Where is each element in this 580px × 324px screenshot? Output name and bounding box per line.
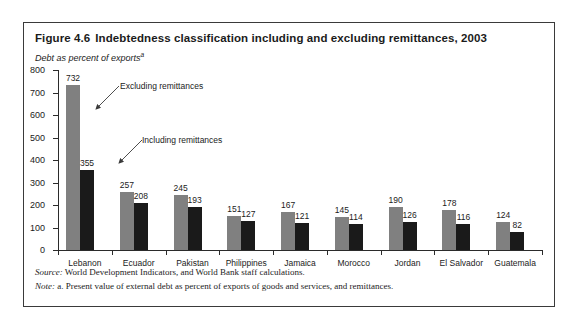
y-axis-tick-label: 100: [30, 223, 45, 233]
x-axis-tick: [327, 250, 328, 255]
x-axis-tick: [219, 250, 220, 255]
bar-including-remittances: [510, 232, 524, 250]
figure-footnotes: Source: World Development Indicators, an…: [35, 266, 540, 294]
footnote-source-text: World Development Indicators, and World …: [65, 267, 305, 277]
x-axis-tick: [434, 250, 435, 255]
y-axis-tick-label: 600: [30, 110, 45, 120]
bar-value-excluding: 178: [442, 198, 456, 208]
bar-value-including: 114: [349, 212, 363, 222]
bar-including-remittances: [241, 221, 255, 250]
x-axis-tick: [112, 250, 113, 255]
axis-subtitle-superscript: a: [141, 51, 145, 58]
bar-group: 12482: [488, 70, 542, 250]
bar-including-remittances: [134, 203, 148, 250]
figure-title-text: Indebtedness classification including an…: [95, 32, 487, 44]
x-axis-tick: [542, 250, 543, 255]
bar-group: 145114: [327, 70, 381, 250]
y-axis-tick-label: 300: [30, 178, 45, 188]
bar-excluding-remittances: [442, 210, 456, 250]
bar-excluding-remittances: [496, 222, 510, 250]
bar-group: 245193: [166, 70, 220, 250]
bar-including-remittances: [349, 224, 363, 250]
bar-group: 167121: [273, 70, 327, 250]
bar-including-remittances: [403, 222, 417, 250]
bar-excluding-remittances: [335, 217, 349, 250]
bar-group: 190126: [381, 70, 435, 250]
bar-value-including: 127: [241, 209, 255, 219]
bar-including-remittances: [188, 207, 202, 250]
bar-excluding-remittances: [389, 207, 403, 250]
footnote-source: Source: World Development Indicators, an…: [35, 266, 540, 280]
y-axis-tick-label: 200: [30, 200, 45, 210]
axis-subtitle: Debt as percent of exportsa: [35, 51, 144, 63]
bar-value-including: 126: [403, 210, 417, 220]
x-axis-tick: [381, 250, 382, 255]
footnote-note-label: Note:: [35, 281, 55, 291]
y-axis-tick-label: 0: [40, 245, 45, 255]
bar-group: 178116: [434, 70, 488, 250]
chart-plot-area: 0100200300400500600700800 73235525720824…: [58, 70, 542, 250]
y-axis-tick-label: 800: [30, 65, 45, 75]
x-axis-tick: [273, 250, 274, 255]
bar-value-including: 355: [80, 158, 94, 168]
bar-excluding-remittances: [120, 192, 134, 250]
bar-excluding-remittances: [174, 195, 188, 250]
bar-value-including: 116: [457, 212, 471, 222]
axis-subtitle-text: Debt as percent of exports: [35, 53, 141, 63]
figure-number: Figure 4.6: [35, 32, 90, 44]
bar-value-including: 82: [512, 220, 521, 230]
annotation-excluding-remittances: Excluding remittances: [120, 81, 203, 91]
bar-value-excluding: 124: [496, 210, 510, 220]
x-axis-tick: [58, 250, 59, 255]
bar-value-including: 193: [187, 195, 201, 205]
bar-value-excluding: 190: [389, 195, 403, 205]
bar-group: 732355: [58, 70, 112, 250]
bar-value-excluding: 257: [120, 180, 134, 190]
bar-including-remittances: [80, 170, 94, 250]
footnote-note-text: a. Present value of external debt as per…: [57, 281, 393, 291]
bar-value-including: 121: [295, 211, 309, 221]
bar-including-remittances: [295, 223, 309, 250]
bar-value-excluding: 245: [173, 183, 187, 193]
footnote-source-label: Source:: [35, 267, 63, 277]
figure-panel: Figure 4.6Indebtedness classification in…: [23, 22, 555, 307]
bar-group: 151127: [219, 70, 273, 250]
bar-value-including: 208: [134, 191, 148, 201]
x-axis-tick: [488, 250, 489, 255]
y-axis-tick-label: 700: [30, 88, 45, 98]
annotation-including-remittances: Including remittances: [142, 135, 222, 145]
bar-value-excluding: 732: [66, 73, 80, 83]
bar-excluding-remittances: [66, 85, 80, 250]
y-axis-tick-label: 500: [30, 133, 45, 143]
x-axis-line: [58, 250, 542, 251]
bar-excluding-remittances: [281, 212, 295, 250]
y-axis-tick-label: 400: [30, 155, 45, 165]
figure-title: Figure 4.6Indebtedness classification in…: [35, 32, 487, 44]
bar-value-excluding: 145: [335, 205, 349, 215]
x-axis-tick: [166, 250, 167, 255]
bar-value-excluding: 151: [227, 204, 241, 214]
bar-including-remittances: [456, 224, 470, 250]
bar-group: 257208: [112, 70, 166, 250]
bar-value-excluding: 167: [281, 200, 295, 210]
bar-excluding-remittances: [227, 216, 241, 250]
footnote-note: Note: a. Present value of external debt …: [35, 280, 540, 294]
